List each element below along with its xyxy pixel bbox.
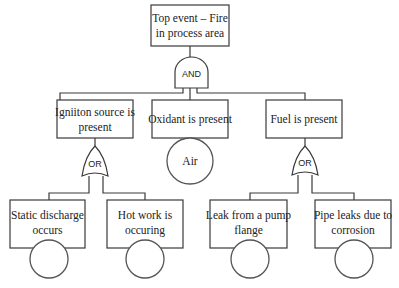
fault-tree-diagram: Top event – Fire in process area AND Ign… <box>0 0 399 288</box>
basic-event-pump-flange-leak: Leak from a pump flange <box>206 200 292 278</box>
ignition-line1: Igniiton source is <box>55 106 135 119</box>
static-discharge-line2: occurs <box>32 224 63 236</box>
fuel-label: Fuel is present <box>270 113 338 126</box>
basic-event-hot-work: Hot work is occuring <box>107 200 183 278</box>
pump-leak-line1: Leak from a pump <box>206 209 292 222</box>
basic-event-circle <box>30 240 68 278</box>
basic-event-circle <box>126 240 164 278</box>
air-label: Air <box>182 155 198 167</box>
intermediate-event-fuel: Fuel is present <box>266 100 342 138</box>
or-gate-left-label: OR <box>88 159 102 169</box>
or-gate-left: OR <box>82 146 108 176</box>
oxidant-label: Oxidant is present <box>148 113 232 126</box>
pipe-corrosion-line2: corrosion <box>331 224 375 236</box>
hot-work-line1: Hot work is <box>118 209 173 221</box>
and-gate: AND <box>175 57 208 88</box>
pump-leak-line2: flange <box>234 224 263 237</box>
and-gate-label: AND <box>182 69 202 79</box>
basic-event-circle <box>335 240 373 278</box>
intermediate-event-oxidant: Oxidant is present <box>148 100 232 138</box>
air-circle: Air <box>167 138 213 184</box>
or-gate-right-label: OR <box>298 158 312 168</box>
basic-event-static-discharge: Static discharge occurs <box>10 200 85 278</box>
top-event-line1: Top event – Fire <box>152 12 228 25</box>
basic-event-circle <box>231 240 269 278</box>
top-event-line2: in process area <box>156 27 224 40</box>
pipe-corrosion-line1: Pipe leaks due to <box>314 209 392 222</box>
static-discharge-line1: Static discharge <box>11 209 84 222</box>
top-event-box: Top event – Fire in process area <box>151 5 229 46</box>
hot-work-line2: occuring <box>125 224 165 237</box>
ignition-line2: present <box>78 121 112 134</box>
intermediate-event-ignition: Igniiton source is present <box>55 100 135 138</box>
basic-event-pipe-corrosion: Pipe leaks due to corrosion <box>314 200 392 278</box>
or-gate-right: OR <box>292 146 318 175</box>
